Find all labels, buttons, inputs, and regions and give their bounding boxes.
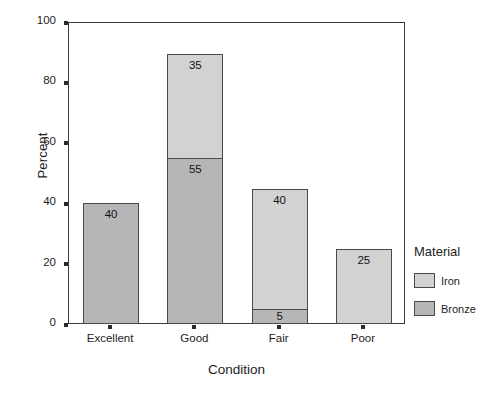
- y-axis-tick-label: 80: [43, 74, 56, 86]
- bar-segment[interactable]: 5: [252, 309, 308, 324]
- x-axis-tick-mark: [192, 325, 196, 329]
- y-axis-tick-label: 40: [43, 195, 56, 207]
- bar-segment[interactable]: 55: [167, 158, 223, 324]
- legend-title: Material: [414, 244, 483, 259]
- y-axis-tick-label: 20: [43, 256, 56, 268]
- bar-value-label: 40: [84, 209, 138, 221]
- y-axis-tick-label: 0: [50, 316, 56, 328]
- bar-stack[interactable]: 40: [83, 203, 139, 323]
- bar-segment[interactable]: 25: [336, 249, 392, 325]
- bar-group: 40: [69, 21, 153, 323]
- chart-container: Percent 100806040200 40355540525 Excelle…: [0, 0, 483, 398]
- legend-label: Bronze: [441, 303, 476, 315]
- y-axis-tick-label: 100: [37, 14, 56, 26]
- x-axis-title: Condition: [68, 362, 405, 377]
- bar-segment[interactable]: 35: [167, 54, 223, 160]
- legend-item[interactable]: Iron: [414, 273, 483, 288]
- bar-value-label: 5: [253, 311, 307, 323]
- bar-group: 405: [238, 21, 322, 323]
- legend: Material IronBronze: [414, 244, 483, 329]
- y-axis-tick-label: 60: [43, 135, 56, 147]
- legend-items: IronBronze: [414, 273, 483, 316]
- x-axis-tick-label: Excellent: [68, 332, 152, 344]
- bar-value-label: 55: [168, 164, 222, 176]
- bar-value-label: 40: [253, 195, 307, 207]
- bar-segment[interactable]: 40: [83, 203, 139, 324]
- y-axis-tick: 100: [0, 22, 68, 23]
- bar-stack[interactable]: 3555: [167, 54, 223, 323]
- bar-value-label: 25: [337, 255, 391, 267]
- bar-group: 3555: [153, 21, 237, 323]
- bar-stack[interactable]: 405: [252, 189, 308, 323]
- bar-segment[interactable]: 40: [252, 189, 308, 310]
- x-axis-tick-mark: [277, 325, 281, 329]
- y-axis-title: Percent: [35, 106, 50, 206]
- plot-area: 40355540525: [68, 22, 405, 324]
- bar-group: 25: [322, 21, 406, 323]
- legend-item[interactable]: Bronze: [414, 301, 483, 316]
- legend-swatch: [414, 273, 435, 288]
- y-axis-tick: 20: [0, 264, 68, 265]
- x-axis-tick-mark: [361, 325, 365, 329]
- bar-stack[interactable]: 25: [336, 249, 392, 323]
- legend-swatch: [414, 301, 435, 316]
- y-axis-tick: 40: [0, 203, 68, 204]
- y-axis-tick: 80: [0, 82, 68, 83]
- x-axis-tick-label: Poor: [321, 332, 405, 344]
- bar-value-label: 35: [168, 60, 222, 72]
- y-axis-tick: 0: [0, 324, 68, 325]
- x-axis-tick-mark: [108, 325, 112, 329]
- x-axis-tick-label: Fair: [237, 332, 321, 344]
- y-axis-tick: 60: [0, 143, 68, 144]
- x-axis-tick-label: Good: [152, 332, 236, 344]
- legend-label: Iron: [441, 275, 460, 287]
